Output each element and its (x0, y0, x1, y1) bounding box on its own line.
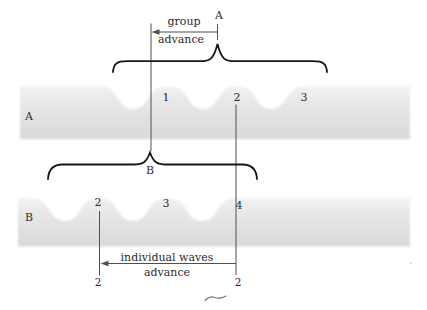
individual-waves-label-line2: advance (144, 267, 190, 278)
individual-advance-arrowhead (101, 261, 109, 266)
band-a-crest-2-label: 2 (234, 92, 241, 103)
group-advance-label-line1: group (167, 16, 200, 27)
band-b-crest-3-label: 3 (163, 198, 170, 209)
band-b-crest-4-label: 4 (236, 200, 243, 211)
print-smudge (205, 296, 226, 301)
band-b-crest-2-label: 2 (95, 197, 102, 208)
band-a-crest-3-label: 3 (301, 92, 308, 103)
group-advance-label-line2: advance (158, 34, 204, 45)
individual-waves-label-line1: individual waves (121, 252, 214, 263)
individual-advance-left-marker: 2 (95, 277, 102, 288)
wave-group-diagram: A group advance 1 2 3 A B 2 3 4 B indivi… (0, 0, 427, 310)
print-speck (410, 263, 412, 265)
band-a-crest-1-label: 1 (163, 92, 170, 103)
band-b-label: B (25, 212, 33, 223)
band-a-label: A (25, 111, 33, 122)
group-a-brace (113, 44, 327, 72)
group-center-marker-label: A (215, 10, 223, 21)
individual-advance-right-marker: 2 (235, 277, 242, 288)
group-b-brace-label: B (146, 165, 154, 176)
